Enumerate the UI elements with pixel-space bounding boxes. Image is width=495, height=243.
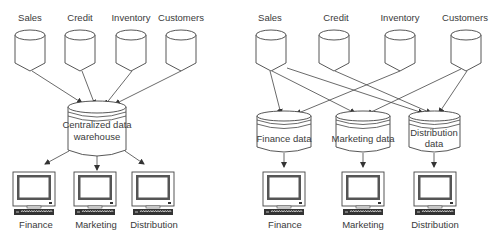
mart-label-marketing: Marketing data — [332, 133, 396, 144]
computer-icon-distribution — [132, 172, 174, 215]
mart-label-distribution-line1: Distribution — [410, 127, 458, 138]
consumer-label-marketing: Marketing — [342, 219, 384, 230]
arrow-customers-to-warehouse — [115, 71, 181, 104]
database-icon-sales — [15, 30, 45, 71]
arrow-sales-to-finance — [270, 71, 281, 114]
source-label-customers: Customers — [442, 12, 488, 23]
arrow-warehouse-to-finance — [45, 151, 69, 164]
right-diagram: Sales Credit Inventory Customers Finance… — [256, 12, 488, 230]
source-label-inventory: Inventory — [111, 12, 150, 23]
arrow-sales-to-distribution — [287, 68, 423, 113]
computer-icon-finance — [13, 172, 55, 215]
database-icon-customers — [451, 30, 481, 71]
database-icon-credit — [65, 30, 95, 71]
computer-icon-finance — [263, 172, 305, 215]
database-icon-inventory — [116, 30, 146, 71]
consumer-label-finance: Finance — [19, 219, 53, 230]
computer-icon-marketing — [342, 172, 384, 215]
warehouse-label-line1: Centralized data — [62, 119, 132, 130]
finance-mart-cylinder-icon — [257, 111, 311, 152]
arrow-inventory-to-warehouse — [105, 71, 132, 105]
mart-label-distribution-line2: data — [425, 138, 444, 149]
warehouse-label-line2: warehouse — [73, 131, 120, 142]
database-icon-inventory — [385, 30, 415, 71]
database-icon-customers — [166, 30, 196, 71]
database-icon-credit — [319, 30, 349, 71]
source-label-sales: Sales — [18, 12, 42, 23]
computer-icon-distribution — [414, 172, 456, 215]
computer-icon-marketing — [74, 172, 116, 215]
consumer-label-distribution: Distribution — [130, 219, 178, 230]
source-label-sales: Sales — [258, 12, 282, 23]
consumer-label-finance: Finance — [268, 219, 302, 230]
arrow-warehouse-to-distribution — [125, 151, 144, 164]
mart-label-finance: Finance data — [257, 133, 313, 144]
consumer-label-distribution: Distribution — [411, 219, 459, 230]
database-icon-sales — [256, 30, 286, 71]
source-label-credit: Credit — [67, 12, 93, 23]
consumer-label-marketing: Marketing — [75, 219, 117, 230]
diagram-canvas: Sales Credit Inventory Customers Central… — [0, 0, 495, 243]
arrow-sales-to-warehouse — [32, 71, 82, 103]
arrow-credit-to-warehouse — [82, 71, 95, 105]
source-label-credit: Credit — [323, 12, 349, 23]
left-diagram: Sales Credit Inventory Customers Central… — [13, 12, 204, 230]
marketing-mart-cylinder-icon — [336, 111, 390, 152]
source-label-inventory: Inventory — [380, 12, 419, 23]
source-label-customers: Customers — [158, 12, 204, 23]
